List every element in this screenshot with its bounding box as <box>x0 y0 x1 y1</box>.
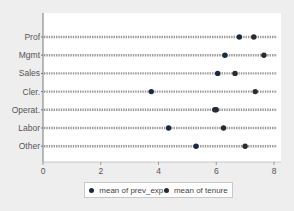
legend-marker-icon <box>89 188 94 193</box>
data-point-tenure <box>232 71 237 76</box>
data-point-prev-exp <box>222 53 227 58</box>
x-tick-label: 0 <box>41 166 46 176</box>
data-point-prev-exp <box>237 34 242 39</box>
legend-label: mean of tenure <box>174 186 228 195</box>
x-tick-label: 4 <box>156 166 161 176</box>
chart-background: ProfMgmtSalesCler.Operat.LaborOther 0246… <box>0 0 294 211</box>
category-label: Mgmt <box>19 50 41 60</box>
x-tick-label: 2 <box>98 166 103 176</box>
dot-plot: ProfMgmtSalesCler.Operat.LaborOther 0246… <box>0 0 294 211</box>
legend-label: mean of prev_exp <box>99 186 163 195</box>
legend: mean of prev_exp mean of tenure <box>84 182 233 198</box>
data-point-prev-exp <box>166 125 171 130</box>
data-point-tenure <box>253 89 258 94</box>
category-label: Other <box>19 141 40 151</box>
category-label: Sales <box>19 68 40 78</box>
x-tick-label: 6 <box>214 166 219 176</box>
legend-item-prev-exp: mean of prev_exp <box>89 186 163 195</box>
category-label: Labor <box>18 123 40 133</box>
legend-item-tenure: mean of tenure <box>164 186 228 195</box>
category-label: Operat. <box>12 105 40 115</box>
data-point-prev-exp <box>149 89 154 94</box>
data-point-tenure <box>221 125 226 130</box>
category-label: Cler. <box>23 87 40 97</box>
plot-region <box>43 13 281 162</box>
legend-marker-icon <box>164 188 169 193</box>
category-label: Prof <box>24 32 40 42</box>
data-point-tenure <box>251 34 256 39</box>
x-axis-ticks: 02468 <box>41 162 277 176</box>
data-point-prev-exp <box>215 71 220 76</box>
data-point-prev-exp <box>193 144 198 149</box>
data-point-tenure <box>242 144 247 149</box>
data-point-tenure <box>212 107 217 112</box>
data-point-tenure <box>261 53 266 58</box>
x-tick-label: 8 <box>272 166 277 176</box>
